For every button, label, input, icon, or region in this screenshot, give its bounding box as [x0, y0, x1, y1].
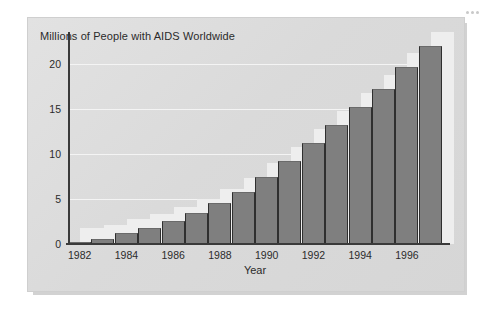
x-axis-title: Year [244, 264, 266, 276]
x-tick-label-1986: 1986 [162, 249, 185, 261]
bar-1989[interactable] [232, 192, 255, 244]
dot-icon [476, 11, 479, 14]
dot-icon [466, 11, 469, 14]
bar-1995[interactable] [372, 89, 395, 244]
bars-layer [68, 32, 442, 244]
x-tick-label-1990: 1990 [255, 249, 278, 261]
bar-1994[interactable] [349, 107, 372, 244]
y-tick-label-5: 5 [55, 193, 61, 205]
x-axis-line [66, 243, 450, 245]
bar-1997[interactable] [419, 46, 442, 244]
bar-1988[interactable] [208, 203, 231, 244]
y-tick-label-0: 0 [55, 238, 61, 250]
x-tick-label-1992: 1992 [302, 249, 325, 261]
x-tick-label-1994: 1994 [349, 249, 372, 261]
bar-1986[interactable] [162, 221, 185, 244]
bar-1990[interactable] [255, 177, 278, 244]
x-tick-label-1984: 1984 [115, 249, 138, 261]
bar-1985[interactable] [138, 228, 161, 244]
dot-icon [471, 11, 474, 14]
x-tick-label-1988: 1988 [208, 249, 231, 261]
x-tick-label-1982: 1982 [68, 249, 91, 261]
bar-1992[interactable] [302, 143, 325, 244]
bar-1996[interactable] [395, 67, 418, 244]
bar-1991[interactable] [278, 161, 301, 244]
x-tick-label-1996: 1996 [395, 249, 418, 261]
chart-title: Millions of People with AIDS Worldwide [40, 30, 235, 42]
y-tick-label-15: 15 [49, 103, 61, 115]
plot-area: 05101520 1982198419861988199019921994199… [68, 32, 442, 244]
y-tick-label-10: 10 [49, 148, 61, 160]
y-tick-label-20: 20 [49, 58, 61, 70]
y-axis-line [68, 32, 70, 244]
bar-1987[interactable] [185, 213, 208, 244]
bar-1993[interactable] [325, 125, 348, 244]
chart-panel: Millions of People with AIDS Worldwide 0… [27, 17, 465, 292]
corner-dots-artifact [466, 8, 488, 16]
